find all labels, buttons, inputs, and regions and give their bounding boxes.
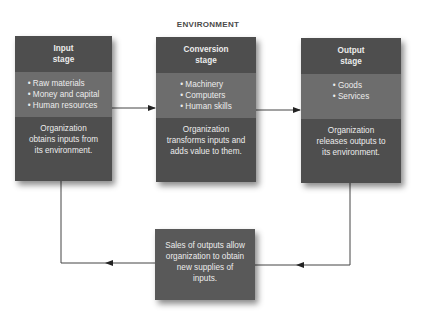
stage-heading: Conversion stage (156, 37, 256, 73)
stage-item: Human resources (28, 100, 100, 111)
conversion-stage-box: Conversion stage Machinery Computers Hum… (156, 37, 256, 182)
feedback-text: Sales of outputs allow organization to o… (164, 240, 246, 284)
stage-heading: Output stage (301, 38, 401, 74)
stage-description: Organization obtains inputs from its env… (15, 117, 112, 181)
stage-item: Money and capital (28, 89, 100, 100)
output-stage-box: Output stage Goods Services Organization… (301, 38, 401, 183)
stage-items: Goods Services (301, 74, 401, 119)
arrow-output-to-feedback (297, 183, 350, 265)
feedback-box: Sales of outputs allow organization to o… (155, 229, 255, 300)
line-feedback-to-input-tail (61, 181, 106, 263)
stage-description: Organization releases outputs to its env… (301, 119, 401, 183)
stage-heading: Input stage (15, 36, 112, 72)
stage-item: Raw materials (28, 78, 100, 89)
stage-item: Human skills (180, 101, 232, 112)
stage-item: Services (333, 91, 370, 102)
stage-description: Organization transforms inputs and adds … (156, 118, 256, 182)
input-stage-box: Input stage Raw materials Money and capi… (15, 36, 112, 181)
diagram-title: ENVIRONMENT (160, 20, 256, 29)
stage-items: Machinery Computers Human skills (156, 73, 256, 118)
stage-items: Raw materials Money and capital Human re… (15, 72, 112, 117)
stage-item: Machinery (180, 79, 232, 90)
stage-item: Computers (180, 90, 232, 101)
stage-item: Goods (333, 80, 370, 91)
